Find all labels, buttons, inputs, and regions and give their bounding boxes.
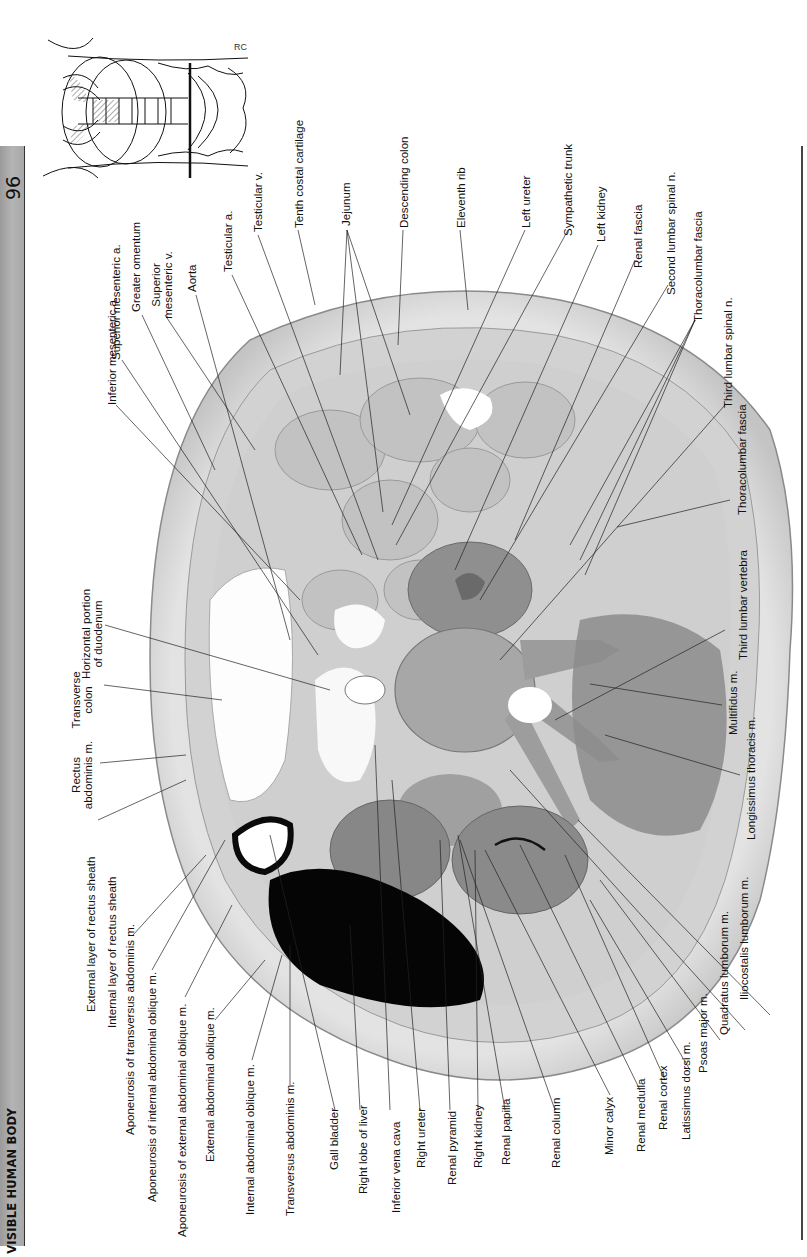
label-inferior-vena-cava: Inferior vena cava: [390, 1122, 403, 1213]
label-jejunum: Jejunum: [340, 183, 353, 226]
label-third-lumbar-spinal-n: Third lumbar spinal n.: [722, 297, 735, 408]
label-aponeurosis-transversus-abdominis: Aponeurosis of transversus abdominis m.: [124, 924, 137, 1135]
label-gall-bladder: Gall bladder: [328, 1108, 341, 1170]
label-internal-abdominal-oblique-m: Internal abdominal oblique m.: [244, 1064, 257, 1215]
label-left-kidney: Left kidney: [595, 186, 608, 242]
label-external-layer-rectus-sheath: External layer of rectus sheath: [85, 857, 98, 1012]
label-internal-layer-rectus-sheath: Internal layer of rectus sheath: [106, 877, 119, 1029]
label-transverse-colon: Transverse colon: [70, 670, 94, 730]
label-quadratus-lumborum-m: Quadratus lumborum m.: [718, 911, 731, 1035]
label-greater-omentum: Greater omentum: [130, 222, 143, 312]
label-descending-colon: Descending colon: [398, 137, 411, 228]
label-horizontal-portion-duodenum: Horizontal portion of duodenum: [80, 588, 104, 680]
label-tenth-costal-cartilage: Tenth costal cartilage: [293, 120, 306, 228]
label-right-ureter: Right ureter: [415, 1108, 428, 1168]
label-left-ureter: Left ureter: [520, 176, 533, 228]
label-renal-column: Renal column: [550, 1098, 563, 1168]
label-superior-mesenteric-v: Superior mesenteric v.: [150, 250, 174, 320]
label-renal-papilla: Renal papilla: [500, 1099, 513, 1166]
label-renal-medulla: Renal medulla: [635, 1078, 648, 1152]
label-sympathetic-trunk: Sympathetic trunk: [562, 144, 575, 236]
label-second-lumbar-spinal-n: Second lumbar spinal n.: [665, 172, 678, 295]
label-external-abdominal-oblique-m: External abdominal oblique m.: [204, 1007, 217, 1162]
label-longissimus-thoracis-m: Longissimus thoracis m.: [745, 717, 758, 840]
label-rectus-abdominis-m: Rectus abdominis m.: [70, 740, 94, 810]
label-transversus-abdominis-m: Transversus abdominis m.: [284, 1082, 297, 1216]
label-eleventh-rib: Eleventh rib: [455, 167, 468, 228]
label-multifidus-m: Multifidus m.: [727, 670, 740, 735]
label-latissimus-dorsi-m: Latissimus dorsi m.: [680, 1042, 693, 1140]
label-testicular-v: Testicular v.: [252, 172, 265, 232]
label-superior-mesenteric-a: Superior mesenteric a.: [110, 244, 123, 360]
label-third-lumbar-vertebra: Third lumbar vertebra: [737, 550, 750, 660]
label-minor-calyx: Minor calyx: [603, 1097, 616, 1155]
label-thoracolumbar-fascia-upper: Thoracolumbar fascia: [692, 211, 705, 322]
label-right-lobe-of-liver: Right lobe of liver: [357, 1105, 370, 1194]
label-renal-cortex: Renal cortex: [657, 1065, 670, 1130]
label-thoracolumbar-fascia-lower: Thoracolumbar fascia: [736, 404, 749, 515]
label-psoas-major-m: Psoas major m.: [697, 993, 710, 1073]
label-right-kidney: Right kidney: [472, 1105, 485, 1168]
label-testicular-a: Testicular a.: [222, 211, 235, 272]
label-aponeurosis-internal-oblique: Aponeurosis of internal abdominal obliqu…: [146, 972, 159, 1202]
label-iliocostalis-lumborum-m: Iliocostalis lumborum m.: [738, 877, 751, 1000]
label-renal-pyramid: Renal pyramid: [446, 1111, 459, 1185]
label-renal-fascia: Renal fascia: [632, 205, 645, 268]
label-aponeurosis-external-oblique: Aponeurosis of external abdominal obliqu…: [176, 1004, 189, 1237]
label-aorta: Aorta: [186, 265, 199, 293]
